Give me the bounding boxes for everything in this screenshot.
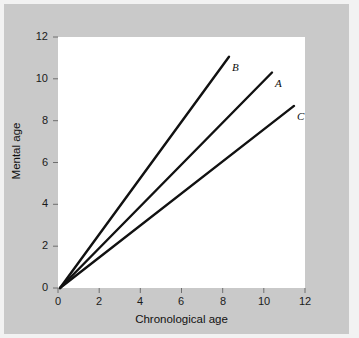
x-axis-ticks: [58, 288, 305, 293]
x-axis-title: Chronological age: [58, 313, 305, 325]
y-tick-label-2: 2: [22, 240, 48, 251]
x-tick-label-4: 4: [128, 296, 152, 307]
series-line-a: [60, 73, 272, 289]
series-label-a: A: [275, 78, 282, 89]
series-line-c: [60, 106, 294, 288]
series-label-c: C: [297, 111, 304, 122]
data-series-lines: [60, 57, 294, 288]
x-tick-label-0: 0: [46, 296, 70, 307]
y-tick-label-12: 12: [22, 31, 48, 42]
y-tick-label-10: 10: [22, 73, 48, 84]
x-tick-label-6: 6: [169, 296, 193, 307]
series-label-b: B: [232, 62, 239, 73]
chart-page: 12 10 8 6 4 2 0 0 2 4 6 8 10 12 Mental a…: [0, 0, 359, 338]
y-tick-label-4: 4: [22, 198, 48, 209]
plot-graphics: [0, 0, 359, 338]
y-tick-label-6: 6: [22, 157, 48, 168]
y-tick-label-8: 8: [22, 115, 48, 126]
x-tick-label-12: 12: [293, 296, 317, 307]
x-tick-label-2: 2: [87, 296, 111, 307]
series-line-b: [60, 57, 229, 288]
x-tick-label-10: 10: [252, 296, 276, 307]
y-tick-label-0: 0: [22, 282, 48, 293]
x-tick-label-8: 8: [211, 296, 235, 307]
y-axis-title: Mental age: [10, 111, 22, 191]
y-axis-ticks: [53, 37, 58, 288]
